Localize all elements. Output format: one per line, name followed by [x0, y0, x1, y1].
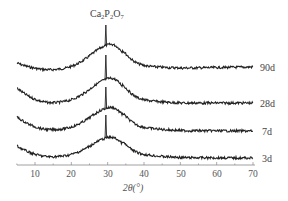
x-axis-ticks — [17, 162, 253, 165]
x-tick-label: 40 — [139, 170, 149, 180]
x-tick-label: 20 — [66, 170, 76, 180]
series-label-90d: 90d — [260, 63, 275, 73]
x-tick-label: 70 — [248, 170, 258, 180]
series-label-28d: 28d — [260, 99, 275, 109]
x-tick-label: 10 — [30, 170, 40, 180]
series-label-3d: 3d — [262, 154, 272, 164]
xrd-curves — [17, 25, 253, 159]
peak-annotation: Ca2P2O7 — [90, 8, 124, 20]
x-tick-label: 30 — [103, 170, 113, 180]
x-tick-label: 60 — [212, 170, 222, 180]
x-axis-label: 2θ(°) — [123, 182, 144, 193]
x-tick-label: 50 — [176, 170, 186, 180]
series-label-7d: 7d — [262, 127, 272, 137]
